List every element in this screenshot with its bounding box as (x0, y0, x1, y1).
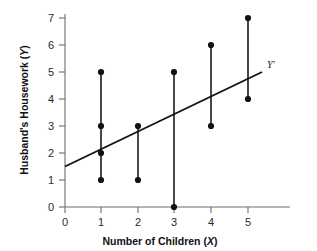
figure-container: 0 1 2 3 4 5 6 7 0 1 2 3 4 5 Number of C (0, 0, 317, 251)
data-point (135, 123, 141, 129)
x-tick-label-5: 5 (245, 216, 251, 228)
y-axis-title: Husband's Housework (Y) (18, 45, 30, 175)
y-tick-label-0: 0 (48, 201, 54, 213)
regression-line-label: Y' (267, 59, 276, 70)
y-tick-label-1: 1 (48, 174, 54, 186)
data-point (98, 177, 104, 183)
x-tick-label-2: 2 (135, 216, 141, 228)
x-axis-tick-labels: 0 1 2 3 4 5 (62, 216, 251, 228)
column-connectors (101, 18, 248, 207)
x-axis-title-text: Number of Children (103, 235, 201, 247)
x-tick-label-1: 1 (98, 216, 104, 228)
data-point (208, 42, 214, 48)
x-tick-label-3: 3 (171, 216, 177, 228)
data-point (171, 69, 177, 75)
x-axis-title: Number of Children (X) (103, 235, 218, 247)
x-tick-label-0: 0 (62, 216, 68, 228)
y-axis-ticks (59, 18, 65, 207)
x-axis-ticks (65, 207, 248, 213)
y-tick-label-2: 2 (48, 147, 54, 159)
y-tick-label-5: 5 (48, 66, 54, 78)
regression-line (65, 72, 262, 167)
data-point (245, 96, 251, 102)
x-tick-label-4: 4 (208, 216, 214, 228)
y-axis-tick-labels: 0 1 2 3 4 5 6 7 (48, 12, 54, 213)
y-tick-label-7: 7 (48, 12, 54, 24)
data-point (98, 150, 104, 156)
data-point (98, 69, 104, 75)
data-point (245, 15, 251, 21)
data-point (98, 123, 104, 129)
data-point (208, 123, 214, 129)
y-tick-label-4: 4 (48, 93, 54, 105)
y-axis-title-text: Husband's Housework (18, 62, 30, 175)
scatter-plot: 0 1 2 3 4 5 6 7 0 1 2 3 4 5 Number of C (0, 0, 317, 251)
data-point (135, 177, 141, 183)
data-point (171, 204, 177, 210)
y-tick-label-6: 6 (48, 39, 54, 51)
y-tick-label-3: 3 (48, 120, 54, 132)
